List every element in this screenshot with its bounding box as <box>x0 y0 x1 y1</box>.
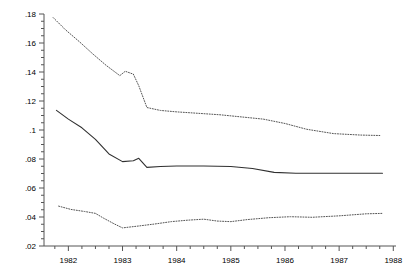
y-tick-label: .16 <box>25 39 37 48</box>
y-tick-label: .08 <box>25 155 37 164</box>
x-tick-label: 1984 <box>168 256 186 265</box>
y-tick-label: .06 <box>25 184 37 193</box>
y-tick-label: .14 <box>25 68 37 77</box>
time-series-chart: .02.04.06.08.1.12.14.16.18 1982198319841… <box>0 0 405 273</box>
x-tick-label: 1982 <box>59 256 77 265</box>
chart-background <box>0 0 405 273</box>
x-tick-label: 1983 <box>114 256 132 265</box>
y-tick-label: .02 <box>25 242 37 251</box>
x-tick-label: 1985 <box>222 256 240 265</box>
x-tick-label: 1986 <box>276 256 294 265</box>
y-tick-label: .1 <box>29 126 36 135</box>
y-tick-label: .18 <box>25 10 37 19</box>
chart-container: .02.04.06.08.1.12.14.16.18 1982198319841… <box>0 0 405 273</box>
y-tick-label: .04 <box>25 213 37 222</box>
x-tick-label: 1987 <box>330 256 348 265</box>
y-tick-label: .12 <box>25 97 37 106</box>
x-tick-label: 1988 <box>384 256 402 265</box>
